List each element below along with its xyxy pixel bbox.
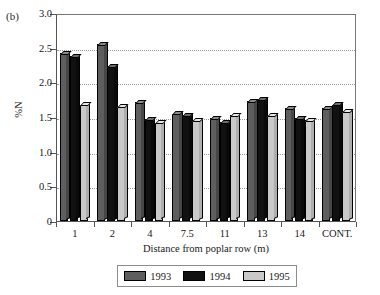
- legend-label-1995: 1995: [269, 271, 290, 282]
- bar-1995-2: [117, 107, 125, 221]
- legend-swatch-1995: [243, 271, 265, 281]
- x-tick-mark: [356, 222, 357, 227]
- bar-1993-14: [285, 108, 293, 221]
- bar-1994-14: [295, 118, 303, 221]
- plot-area: [56, 14, 356, 222]
- x-tick-label-11: 11: [220, 228, 230, 239]
- legend-label-1994: 1994: [209, 271, 230, 282]
- bar-side: [274, 114, 278, 219]
- bar-side: [124, 105, 128, 219]
- figure-panel-b: (b) 00.51.01.52.02.53.0 %N 1247.5111314C…: [0, 0, 380, 295]
- bar-side: [199, 119, 203, 219]
- bar-cap: [210, 116, 221, 120]
- x-tick-label-13: 13: [257, 228, 268, 239]
- y-tick-label: 3.0: [39, 9, 52, 19]
- x-tick-mark: [94, 222, 95, 227]
- bar-cap: [230, 113, 241, 117]
- bar-cap: [70, 54, 81, 58]
- bar-1995-CONT.: [342, 111, 350, 221]
- bar-1995-4: [155, 123, 163, 221]
- x-tick-mark: [56, 222, 57, 227]
- legend-label-1993: 1993: [150, 271, 171, 282]
- x-tick-label-1: 1: [72, 228, 77, 239]
- bar-side: [349, 110, 353, 219]
- bar-group: [172, 15, 200, 221]
- bar-group: [60, 15, 88, 221]
- x-axis-title: Distance from poplar row (m): [56, 243, 356, 254]
- bar-1995-1: [80, 105, 88, 221]
- bar-1993-7.5: [172, 114, 180, 221]
- bar-1994-2: [107, 66, 115, 221]
- bar-1993-4: [135, 102, 143, 221]
- bar-group: [285, 15, 313, 221]
- plot-inner: [57, 15, 355, 221]
- y-tick-label: 1.0: [39, 148, 52, 158]
- bar-1993-13: [247, 101, 255, 221]
- bar-1995-14: [305, 120, 313, 221]
- y-tick-label: 2.5: [39, 44, 52, 54]
- bar-1993-CONT.: [322, 108, 330, 221]
- x-tick-mark: [281, 222, 282, 227]
- bar-1994-11: [220, 122, 228, 221]
- x-tick-mark: [244, 222, 245, 227]
- bar-1993-2: [97, 44, 105, 221]
- bar-cap: [145, 117, 156, 121]
- bar-1994-7.5: [182, 115, 190, 221]
- y-tick-label: 0.5: [39, 182, 52, 192]
- x-tick-mark: [169, 222, 170, 227]
- x-tick-label-4: 4: [147, 228, 152, 239]
- x-tick-label-14: 14: [295, 228, 306, 239]
- bar-1993-11: [210, 118, 218, 221]
- x-tick-mark: [319, 222, 320, 227]
- y-tick-label: 2.0: [39, 78, 52, 88]
- bar-1995-13: [267, 116, 275, 221]
- bar-cap: [305, 118, 316, 122]
- bar-side: [86, 103, 90, 219]
- legend-item-1993: 1993: [124, 271, 171, 282]
- bar-side: [236, 113, 240, 219]
- bar-cap: [155, 120, 166, 124]
- x-axis-tick-labels: 1247.5111314CONT.: [56, 228, 356, 244]
- x-tick-mark: [131, 222, 132, 227]
- bar-1995-11: [230, 115, 238, 221]
- x-tick-label-75: 7.5: [181, 228, 194, 239]
- y-tick-label: 0: [47, 217, 52, 227]
- legend-item-1995: 1995: [243, 271, 290, 282]
- x-tick-mark: [206, 222, 207, 227]
- bar-group: [247, 15, 275, 221]
- bar-cap: [135, 100, 146, 104]
- bar-group: [135, 15, 163, 221]
- x-tick-label-2: 2: [110, 228, 115, 239]
- bar-1994-1: [70, 56, 78, 221]
- chart-legend: 199319941995: [117, 265, 297, 287]
- bar-group: [210, 15, 238, 221]
- y-axis-title: %N: [13, 88, 24, 132]
- legend-swatch-1993: [124, 271, 146, 281]
- bar-group: [97, 15, 125, 221]
- bar-1994-13: [257, 99, 265, 221]
- bar-side: [311, 119, 315, 219]
- bar-side: [161, 121, 165, 219]
- legend-swatch-1994: [183, 271, 205, 281]
- bar-cap: [60, 51, 71, 55]
- bar-cap: [295, 116, 306, 120]
- x-tick-label-CONT: CONT.: [322, 228, 352, 239]
- bar-group: [322, 15, 350, 221]
- bar-1994-4: [145, 119, 153, 221]
- bar-1993-1: [60, 53, 68, 221]
- legend-item-1994: 1994: [183, 271, 230, 282]
- bar-cap: [285, 106, 296, 110]
- bar-1994-CONT.: [332, 105, 340, 221]
- bar-1995-7.5: [192, 120, 200, 221]
- y-tick-label: 1.5: [39, 113, 52, 123]
- bar-cap: [80, 102, 91, 106]
